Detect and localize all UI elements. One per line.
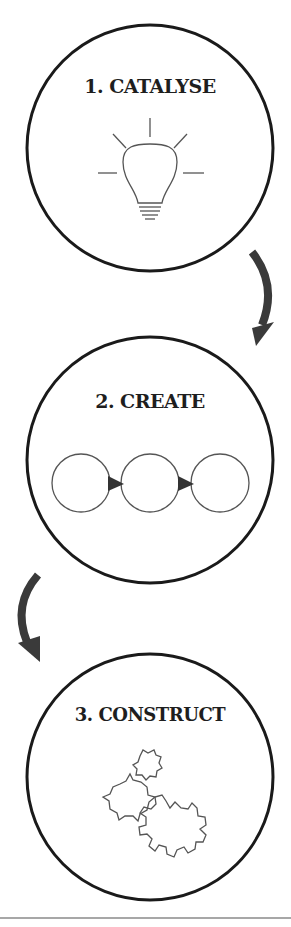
curved-arrow-down-icon [18, 575, 40, 662]
stage-1-circle [27, 25, 273, 271]
iteration-circles-icon [52, 454, 249, 512]
stage-1-title: 1. CATALYSE [0, 75, 291, 97]
stage-3-title: 3. CONSTRUCT [0, 704, 291, 725]
gears-icon [103, 750, 206, 857]
stage-2-title: 2. CREATE [0, 390, 291, 412]
curved-arrow-down-icon [252, 252, 274, 346]
stage-3-circle [27, 654, 273, 900]
process-diagram [0, 0, 291, 927]
lightbulb-icon [98, 118, 204, 219]
